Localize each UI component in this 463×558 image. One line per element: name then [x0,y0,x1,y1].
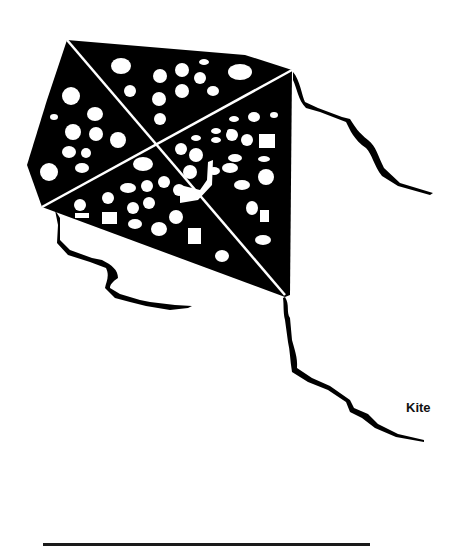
kite-tail-bottom [283,297,424,442]
kite-illustration [0,0,463,558]
baseline-rule [43,543,370,546]
kite-tail-right [293,72,433,195]
kite-label: Kite [406,400,431,415]
